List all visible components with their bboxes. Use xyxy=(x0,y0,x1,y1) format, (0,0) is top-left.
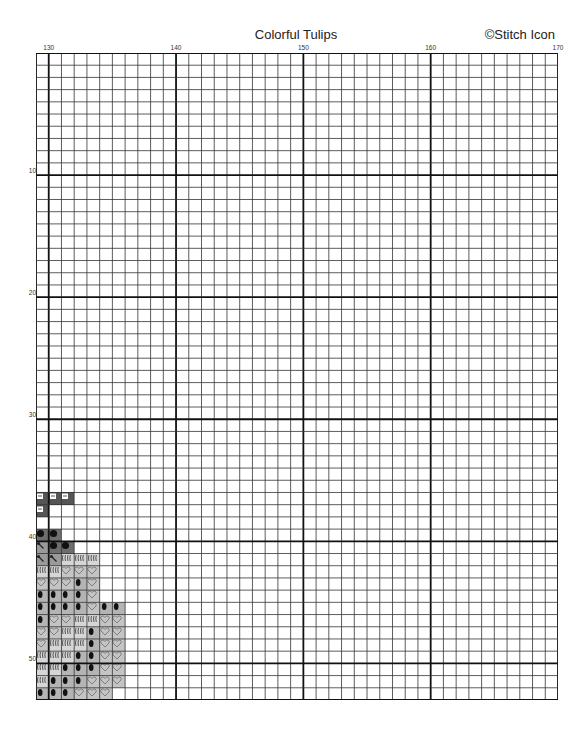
copyright-label: ©Stitch Icon xyxy=(485,27,555,42)
row-label: 50 xyxy=(22,655,36,662)
row-label: 30 xyxy=(22,411,36,418)
row-label: 20 xyxy=(22,289,36,296)
column-label: 170 xyxy=(553,44,564,51)
row-label: 40 xyxy=(22,533,36,540)
row-label: 10 xyxy=(22,167,36,174)
grid-lines xyxy=(36,53,558,700)
column-label: 130 xyxy=(43,44,54,51)
column-label: 140 xyxy=(171,44,182,51)
column-label: 150 xyxy=(298,44,309,51)
column-label: 160 xyxy=(425,44,436,51)
cross-stitch-grid xyxy=(36,53,558,700)
